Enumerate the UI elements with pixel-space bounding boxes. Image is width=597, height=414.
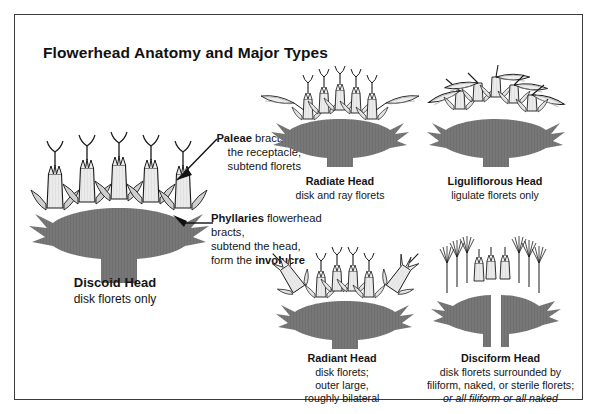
disk-florets [292, 66, 388, 120]
receptacle-right-half [501, 295, 561, 347]
receptacle-and-phyllaries [271, 119, 409, 167]
callout-phyllaries-leader [167, 209, 219, 233]
figure-radiant-head [273, 233, 418, 351]
caption-discoid-heading: Discoid Head [35, 275, 195, 291]
caption-radiant-line-3: roughly bilateral [267, 392, 417, 405]
caption-disciform-line-1: disk florets surrounded by [413, 366, 588, 379]
caption-disciform-heading: Disciform Head [413, 352, 588, 365]
caption-radiant-heading: Radiant Head [267, 352, 417, 365]
figure-liguliflorous-head [420, 47, 570, 168]
caption-liguliflorous-heading: Liguliflorous Head [415, 175, 575, 188]
caption-radiant-line-2: outer large, [267, 379, 417, 392]
caption-liguliflorous-line-1: ligulate florets only [415, 189, 575, 202]
caption-disciform-head: Disciform Head disk florets surrounded b… [413, 352, 588, 405]
caption-liguliflorous-head: Liguliflorous Head ligulate florets only [415, 175, 575, 202]
caption-radiate-head: Radiate Head disk and ray florets [270, 175, 410, 202]
caption-radiant-head: Radiant Head disk florets; outer large, … [267, 352, 417, 405]
caption-disciform-line-2: filiform, naked, or sterile florets; [413, 379, 588, 392]
filiform-and-disk-florets [440, 236, 546, 293]
receptacle-and-phyllaries [427, 119, 565, 167]
inner-disk-florets [305, 247, 385, 298]
caption-disciform-line-3: or all filiform or all naked [413, 392, 588, 405]
diagram-frame: Flowerhead Anatomy and Major Types [14, 14, 583, 400]
receptacle-left-half [431, 295, 491, 347]
caption-discoid-line-1: disk florets only [35, 292, 195, 307]
ligulate-florets [428, 65, 564, 112]
caption-discoid-head: Discoid Head disk florets only [35, 275, 195, 306]
figure-disciform-head [423, 233, 573, 351]
caption-radiate-heading: Radiate Head [270, 175, 410, 188]
figure-radiate-head [270, 53, 410, 168]
callout-paleae-leader [155, 133, 225, 199]
receptacle-and-phyllaries [276, 301, 414, 349]
caption-radiant-line-1: disk florets; [267, 366, 417, 379]
caption-radiate-line-1: disk and ray florets [270, 189, 410, 202]
